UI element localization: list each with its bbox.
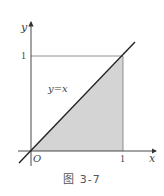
origin-label: O [33, 153, 41, 164]
y-axis-label: y [20, 21, 28, 34]
y-tick-label: 1 [21, 50, 26, 61]
diagram-canvas: y x O 1 1 y=x [0, 0, 164, 196]
line-label: y=x [47, 83, 68, 94]
x-tick-label: 1 [120, 153, 125, 164]
x-axis-label: x [149, 152, 156, 165]
figure-caption: 图 3-7 [0, 170, 164, 186]
